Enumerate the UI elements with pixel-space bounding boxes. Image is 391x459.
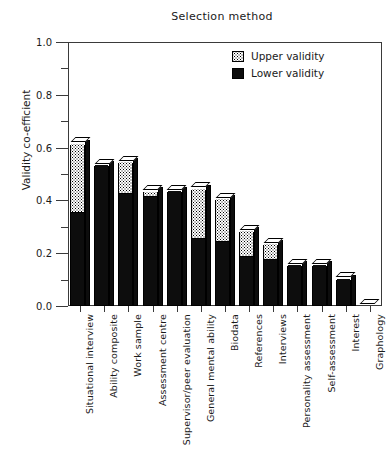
y-tick-label: 0.4 [24, 195, 52, 206]
y-tick-major [56, 148, 68, 149]
bar-segment-lower-validity [240, 257, 253, 305]
y-tick-label: 0.6 [24, 142, 52, 153]
y-tick-label: 0.8 [24, 89, 52, 100]
bar-segment-upper-validity [264, 244, 277, 260]
y-tick-minor [61, 227, 68, 228]
y-tick-major [56, 253, 68, 254]
x-tick [128, 306, 129, 312]
x-axis-label-work-sample: Work sample [132, 314, 143, 377]
bar-group [191, 42, 206, 306]
bar-front-face [287, 266, 302, 306]
bar-side-face [351, 275, 356, 306]
bar-side-face [278, 240, 283, 306]
x-tick [201, 306, 202, 312]
bar-side-face [206, 185, 211, 306]
bar-front-face [239, 232, 254, 306]
bar-segment-lower-validity [168, 191, 181, 305]
bar-segment-upper-validity [216, 199, 229, 241]
y-axis-ticks: 0.00.20.40.60.81.0 [0, 0, 68, 459]
x-axis-label-ability-composite: Ability composite [108, 314, 119, 398]
bar-side-face [302, 261, 307, 306]
bar-group [360, 42, 375, 306]
bar-side-face [85, 140, 90, 306]
x-tick [80, 306, 81, 312]
bar-front-face [215, 200, 230, 306]
y-tick-label: 0.0 [24, 301, 52, 312]
bar-front-face [70, 145, 85, 306]
x-tick [346, 306, 347, 312]
x-tick [249, 306, 250, 312]
y-tick-major [56, 42, 68, 43]
bar-front-face [143, 192, 158, 306]
bar-segment-lower-validity [144, 197, 157, 305]
x-tick [273, 306, 274, 312]
bar-front-face [94, 166, 109, 306]
x-axis-label-biodata: Biodata [229, 314, 240, 351]
bar-side-face [254, 227, 259, 306]
bar-segment-lower-validity [288, 265, 301, 305]
bar-segment-lower-validity [71, 213, 84, 305]
bar-segment-lower-validity [313, 265, 326, 305]
bar-segment-upper-validity [119, 162, 132, 194]
bar-front-face [312, 266, 327, 306]
validity-coefficient-chart: Selection method Validity co-efficient 0… [0, 0, 391, 459]
chart-legend: Upper validityLower validity [232, 50, 325, 84]
x-axis-label-supervisor-peer-evaluation: Supervisor/peer evaluation [181, 314, 192, 445]
x-axis-label-self-assessment: Self-assessment [326, 314, 337, 393]
y-tick-major [56, 200, 68, 201]
legend-swatch-lower-validity [232, 68, 244, 79]
x-axis-label-assessment-centre: Assessment centre [157, 314, 168, 406]
y-tick-major [56, 95, 68, 96]
x-axis-label-general-mental-ability: General mental ability [205, 314, 216, 422]
bar-segment-lower-validity [192, 239, 205, 305]
bar-segment-lower-validity [119, 194, 132, 305]
bar-side-face [327, 261, 332, 306]
x-tick [153, 306, 154, 312]
x-tick [370, 306, 371, 312]
y-tick-minor [61, 174, 68, 175]
y-tick-label: 1.0 [24, 37, 52, 48]
chart-title: Selection method [62, 10, 382, 23]
bar-group [336, 42, 351, 306]
y-tick-major [56, 306, 68, 307]
bar-group [118, 42, 133, 306]
bar-group [167, 42, 182, 306]
bar-side-face [182, 187, 187, 306]
x-tick [177, 306, 178, 312]
legend-item: Lower validity [232, 67, 325, 79]
bar-group [94, 42, 109, 306]
x-axis-label-graphology: Graphology [374, 314, 385, 370]
x-axis-label-interest: Interest [350, 314, 361, 351]
legend-item: Upper validity [232, 50, 325, 62]
bar-segment-lower-validity [337, 279, 350, 305]
bars-layer [68, 42, 382, 306]
x-axis-label-personality-assessment: Personality assessment [301, 314, 312, 428]
bar-front-face [336, 280, 351, 306]
bar-segment-lower-validity [95, 165, 108, 305]
y-tick-label: 0.2 [24, 248, 52, 259]
bar-front-face [167, 192, 182, 306]
legend-label: Upper validity [251, 50, 325, 62]
bar-front-face [263, 245, 278, 306]
x-axis-label-situational-interview: Situational interview [84, 314, 95, 414]
legend-swatch-upper-validity [232, 51, 244, 62]
x-tick [322, 306, 323, 312]
y-tick-minor [61, 280, 68, 281]
x-tick [225, 306, 226, 312]
bar-front-face [118, 163, 133, 306]
x-axis-label-interviews: Interviews [277, 314, 288, 364]
bar-side-face [133, 158, 138, 306]
legend-label: Lower validity [251, 67, 324, 79]
bar-side-face [158, 187, 163, 306]
bar-side-face [109, 161, 114, 306]
x-axis-label-references: References [253, 314, 264, 368]
x-tick [104, 306, 105, 312]
bar-segment-upper-validity [240, 231, 253, 257]
bar-top-face [360, 299, 380, 304]
bar-group [143, 42, 158, 306]
bar-segment-lower-validity [216, 242, 229, 305]
bar-group [70, 42, 85, 306]
bar-group [215, 42, 230, 306]
bar-segment-upper-validity [71, 144, 84, 213]
x-tick [297, 306, 298, 312]
